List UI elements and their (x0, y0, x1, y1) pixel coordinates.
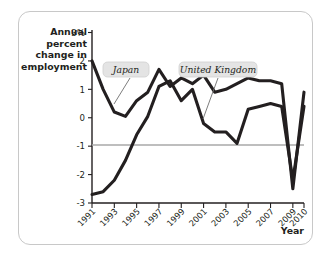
united-kingdom-callout-label: United Kingdom (180, 64, 257, 75)
x-tick-label: 2005 (231, 206, 253, 228)
x-tick-label: 2007 (254, 206, 276, 228)
series-line-united-kingdom (92, 61, 304, 189)
y-axis-title-line-2: percent (46, 38, 87, 49)
x-axis-tick-labels: 1991199319951997199920012003200520072009… (75, 206, 309, 228)
united-kingdom-callout: United Kingdom (179, 62, 257, 77)
x-tick-label: 2003 (209, 206, 231, 228)
x-tick-label: 1995 (120, 206, 142, 228)
x-tick-label: 1999 (165, 206, 187, 228)
x-tick-label: 2001 (187, 206, 209, 228)
y-tick-label: -1 (76, 141, 85, 151)
y-axis-title-line-4: employment (21, 61, 87, 72)
y-tick-label: 2 (80, 56, 85, 66)
y-tick-label: 0 (80, 113, 85, 123)
series-line-japan (92, 81, 304, 195)
y-tick-label: -2 (76, 170, 85, 180)
japan-leader-line (114, 78, 130, 104)
chart-figure: Annual percent change in employment 3%21… (18, 11, 313, 245)
y-tick-label: 3% (71, 28, 85, 38)
x-axis-tick-marks (92, 203, 304, 208)
y-tick-label: 1 (80, 85, 85, 95)
japan-callout: Japan (103, 62, 149, 77)
x-axis-title: Year (280, 225, 305, 236)
x-tick-label: 1997 (142, 206, 164, 228)
x-tick-label: 1993 (98, 206, 120, 228)
y-tick-label: -3 (76, 198, 85, 208)
employment-line-chart: Annual percent change in employment 3%21… (19, 12, 314, 246)
japan-callout-label: Japan (111, 64, 140, 75)
x-tick-label: 1991 (75, 206, 97, 228)
